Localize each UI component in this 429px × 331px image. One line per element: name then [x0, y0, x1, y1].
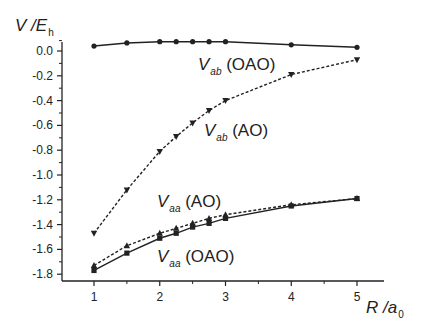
- marker-triangle-down: [222, 98, 228, 104]
- marker-square: [190, 224, 195, 229]
- marker-circle: [206, 39, 211, 44]
- x-ticks: 12345: [91, 281, 361, 304]
- marker-circle: [354, 45, 359, 50]
- x-tick-label: 2: [156, 290, 163, 304]
- y-tick-label: 0.0: [36, 44, 53, 58]
- y-tick-label: -0.8: [32, 143, 53, 157]
- series-line: [94, 60, 357, 234]
- marker-square: [91, 268, 96, 273]
- marker-square: [124, 251, 129, 256]
- chart: 0.0-0.2-0.4-0.6-0.8-1.0-1.2-1.4-1.6-1.8 …: [0, 0, 429, 331]
- y-tick-label: -0.6: [32, 118, 53, 132]
- y-tick-label: -1.0: [32, 168, 53, 182]
- x-tick-label: 3: [222, 290, 229, 304]
- marker-circle: [289, 42, 294, 47]
- marker-circle: [174, 39, 179, 44]
- y-axis-title: V /Eh: [15, 16, 54, 38]
- y-ticks: 0.0-0.2-0.4-0.6-0.8-1.0-1.2-1.4-1.6-1.8: [32, 41, 62, 282]
- y-tick-label: -1.2: [32, 193, 53, 207]
- x-axis-title: R /a0: [366, 298, 404, 320]
- marker-circle: [91, 43, 96, 48]
- marker-triangle-down: [206, 108, 212, 114]
- y-tick-label: -1.6: [32, 242, 53, 256]
- series-v-ab-ao-: [91, 57, 360, 237]
- marker-triangle-up: [91, 262, 97, 268]
- y-tick-label: -0.4: [32, 94, 53, 108]
- marker-square: [157, 236, 162, 241]
- marker-square: [289, 203, 294, 208]
- marker-square: [223, 216, 228, 221]
- marker-square: [354, 196, 359, 201]
- label-vaa-ao: Vaa (AO): [157, 192, 221, 214]
- marker-triangle-down: [173, 134, 179, 140]
- x-tick-label: 4: [288, 290, 295, 304]
- y-tick-label: -1.8: [32, 267, 53, 281]
- marker-triangle-down: [91, 231, 97, 237]
- marker-square: [174, 231, 179, 236]
- y-tick-label: -0.2: [32, 69, 53, 83]
- label-vab-oao: Vab (OAO): [198, 55, 275, 77]
- marker-circle: [124, 40, 129, 45]
- y-tick-label: -1.4: [32, 218, 53, 232]
- label-vaa-oao: Vaa (OAO): [157, 247, 234, 269]
- series-v-ab-oao-: [91, 39, 359, 50]
- marker-circle: [190, 39, 195, 44]
- label-vab-ao: Vab (AO): [204, 121, 268, 143]
- x-tick-label: 1: [91, 290, 98, 304]
- marker-square: [206, 221, 211, 226]
- series-group: [91, 39, 360, 273]
- marker-circle: [157, 39, 162, 44]
- marker-circle: [223, 39, 228, 44]
- marker-triangle-down: [354, 57, 360, 63]
- x-tick-label: 5: [354, 290, 361, 304]
